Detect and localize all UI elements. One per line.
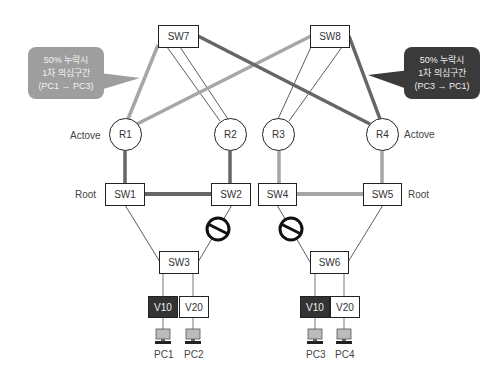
pc2-label: PC2 xyxy=(184,349,203,360)
router-r3[interactable]: R3 xyxy=(262,118,295,151)
switch-sw5[interactable]: SW5 xyxy=(363,183,402,206)
router-r4[interactable]: R4 xyxy=(366,118,399,151)
sw1-role-label: Root xyxy=(75,189,96,200)
switch-sw4[interactable]: SW4 xyxy=(258,183,297,206)
pc3-label: PC3 xyxy=(306,349,325,360)
blocked-port-icon xyxy=(280,218,302,240)
link-sw1-sw3 xyxy=(125,205,160,262)
switch-sw1[interactable]: SW1 xyxy=(105,183,145,206)
vlan-v20-left[interactable]: V20 xyxy=(179,296,209,318)
link-sw5-sw6 xyxy=(348,205,383,262)
computer-icon xyxy=(336,329,352,344)
computer-icon xyxy=(185,329,201,344)
pc4-label: PC4 xyxy=(335,349,354,360)
callout-left: 50% 누락시 1차 의심구간 (PC1 → PC3) xyxy=(28,47,104,99)
switch-sw7[interactable]: SW7 xyxy=(158,25,199,48)
link-sw8-r3-a xyxy=(278,47,311,119)
link-sw8-r3-b xyxy=(289,47,342,121)
link-sw7-r1 xyxy=(128,45,158,119)
r4-role-label: Actove xyxy=(404,129,435,140)
switch-sw2[interactable]: SW2 xyxy=(211,183,251,206)
switch-sw6[interactable]: SW6 xyxy=(310,251,349,274)
callout-right: 50% 누락시 1차 의심구간 (PC3 → PC1) xyxy=(404,47,480,99)
callout-left-tail xyxy=(100,73,140,90)
switch-sw8[interactable]: SW8 xyxy=(310,25,350,48)
sw5-role-label: Root xyxy=(408,189,429,200)
blocked-port-icon xyxy=(207,218,229,240)
vlan-v20-right[interactable]: V20 xyxy=(330,296,360,318)
switch-sw3[interactable]: SW3 xyxy=(159,251,199,274)
link-sw7-r2-a xyxy=(167,47,220,121)
vlan-v10-left[interactable]: V10 xyxy=(148,296,178,318)
computer-icon xyxy=(307,329,323,344)
pc1-label: PC1 xyxy=(154,349,173,360)
router-r1[interactable]: R1 xyxy=(109,118,142,151)
r1-role-label: Actove xyxy=(70,130,101,141)
router-r2[interactable]: R2 xyxy=(214,118,247,151)
vlan-v10-right[interactable]: V10 xyxy=(300,296,330,318)
computer-icon xyxy=(155,329,171,344)
